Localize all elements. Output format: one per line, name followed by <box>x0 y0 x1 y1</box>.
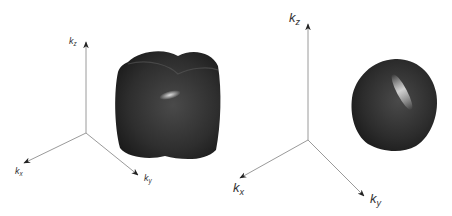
left-kz-label: kz <box>69 36 77 47</box>
right-kx-label: kx <box>233 180 244 197</box>
right-rounded-blob <box>352 59 438 151</box>
left-ky-label: ky <box>144 173 152 184</box>
right-kx-axis <box>240 140 308 178</box>
right-kz-label: kz <box>289 10 300 27</box>
left-kx-label: kx <box>15 166 23 177</box>
right-axes <box>240 24 364 196</box>
diagram-canvas <box>0 0 452 216</box>
left-kx-axis <box>24 133 86 163</box>
right-ky-label: ky <box>370 191 381 208</box>
left-rounded-cube <box>115 51 220 159</box>
right-ky-axis <box>308 140 364 196</box>
